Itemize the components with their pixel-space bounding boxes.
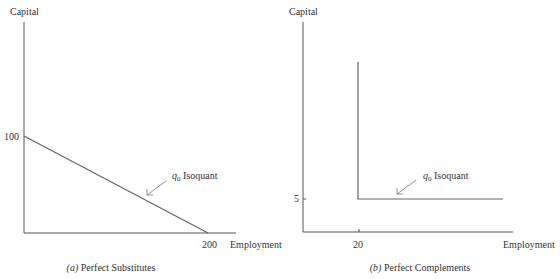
y-tick-label: 100	[4, 131, 19, 142]
x-axis-label: Employment	[230, 239, 282, 250]
chart-perfect-substitutes: Capital 100 q0 Isoquant 200 Employment (…	[4, 6, 282, 274]
caption: (b) Perfect Complements	[370, 262, 471, 274]
chart-perfect-complements: Capital 5 q0 Isoquant 20 Employment (b) …	[289, 6, 555, 274]
isoquant-label: q0 Isoquant	[423, 170, 469, 183]
y-axis-label: Capital	[10, 6, 39, 17]
x-axis-label: Employment	[503, 239, 555, 250]
y-tick-label: 5	[294, 193, 299, 204]
x-tick-label: 20	[353, 239, 363, 250]
arrow-icon	[397, 180, 416, 194]
x-tick-label: 200	[202, 239, 217, 250]
figure: Capital 100 q0 Isoquant 200 Employment (…	[0, 0, 560, 279]
arrow-icon	[147, 181, 166, 195]
isoquant-line	[24, 136, 208, 233]
isoquant-label: q0 Isoquant	[172, 170, 218, 183]
y-axis-label: Capital	[289, 6, 318, 17]
caption: (a) Perfect Substitutes	[67, 262, 156, 274]
